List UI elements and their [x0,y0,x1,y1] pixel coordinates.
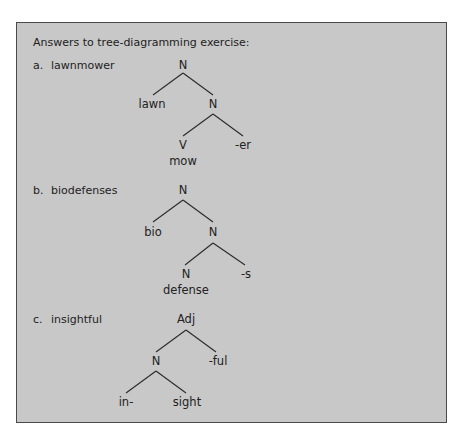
tree-branches [0,0,466,442]
